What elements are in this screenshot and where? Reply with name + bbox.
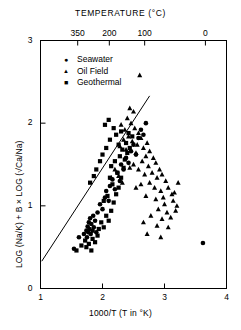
legend-item: ■Geothermal bbox=[60, 77, 121, 89]
data-point-oil-field bbox=[153, 160, 158, 165]
data-point-oil-field bbox=[132, 125, 137, 130]
data-point-oil-field bbox=[153, 197, 158, 202]
data-point-oil-field bbox=[131, 162, 136, 167]
legend: ●Seawater▲Oil Field■Geothermal bbox=[60, 54, 121, 89]
data-point-geothermal bbox=[109, 164, 113, 168]
data-point-oil-field bbox=[168, 215, 173, 220]
top-tick-label: 100 bbox=[134, 28, 156, 38]
data-point-oil-field bbox=[147, 149, 152, 154]
data-point-geothermal bbox=[115, 171, 119, 175]
data-point-geothermal bbox=[108, 138, 112, 142]
data-point-geothermal bbox=[114, 133, 118, 137]
data-point-seawater bbox=[92, 225, 97, 230]
data-point-geothermal bbox=[118, 154, 122, 158]
data-point-oil-field bbox=[164, 210, 169, 215]
data-point-geothermal bbox=[123, 157, 127, 161]
data-point-oil-field bbox=[160, 216, 165, 221]
data-point-geothermal bbox=[92, 174, 96, 178]
square-marker-icon: ■ bbox=[60, 77, 72, 89]
data-point-geothermal bbox=[88, 181, 92, 185]
data-point-oil-field bbox=[133, 150, 138, 155]
data-point-geothermal bbox=[120, 148, 124, 152]
data-points bbox=[72, 73, 206, 253]
data-point-geothermal bbox=[97, 227, 101, 231]
data-point-oil-field bbox=[172, 190, 177, 195]
data-point-geothermal bbox=[93, 240, 97, 244]
data-point-oil-field bbox=[174, 203, 179, 208]
data-point-seawater bbox=[106, 199, 111, 204]
data-point-seawater bbox=[95, 210, 100, 215]
x-tick-label: 3 bbox=[155, 292, 175, 302]
data-point-geothermal bbox=[103, 123, 107, 127]
data-point-geothermal bbox=[114, 192, 118, 196]
data-point-geothermal bbox=[113, 159, 117, 163]
data-point-seawater bbox=[98, 202, 103, 207]
data-point-oil-field bbox=[150, 170, 155, 175]
y-tick-label: 1 bbox=[25, 200, 36, 210]
scatter-plot-figure: TEMPERATURE (°C) LOG (Na/K) + B × LOG (√… bbox=[0, 0, 241, 330]
data-point-oil-field bbox=[166, 185, 171, 190]
data-point-geothermal bbox=[109, 209, 113, 213]
x-tick-label: 1 bbox=[31, 292, 51, 302]
data-point-oil-field bbox=[145, 140, 150, 145]
data-point-geothermal bbox=[126, 131, 130, 135]
data-point-oil-field bbox=[148, 213, 153, 218]
data-point-geothermal bbox=[99, 220, 103, 224]
data-point-geothermal bbox=[112, 200, 116, 204]
data-point-geothermal bbox=[79, 243, 83, 247]
data-point-oil-field bbox=[176, 180, 181, 185]
x-tick-label: 2 bbox=[93, 292, 113, 302]
data-point-oil-field bbox=[161, 195, 166, 200]
data-point-oil-field bbox=[141, 220, 146, 225]
data-point-oil-field bbox=[142, 172, 147, 177]
data-point-oil-field bbox=[160, 172, 165, 177]
data-point-oil-field bbox=[173, 208, 178, 213]
data-point-oil-field bbox=[158, 235, 163, 240]
data-point-oil-field bbox=[146, 163, 151, 168]
data-point-geothermal bbox=[117, 143, 121, 147]
data-point-oil-field bbox=[137, 73, 142, 78]
data-point-oil-field bbox=[127, 106, 132, 111]
data-point-oil-field bbox=[147, 180, 152, 185]
data-point-geothermal bbox=[121, 166, 125, 170]
x-tick-label: 4 bbox=[217, 292, 237, 302]
data-point-oil-field bbox=[133, 185, 138, 190]
data-point-seawater bbox=[126, 161, 131, 166]
legend-item: ▲Oil Field bbox=[60, 66, 121, 78]
data-point-geothermal bbox=[104, 214, 108, 218]
data-point-oil-field bbox=[143, 193, 148, 198]
top-tick-label: 350 bbox=[67, 28, 89, 38]
data-point-oil-field bbox=[125, 116, 130, 121]
data-point-seawater bbox=[144, 121, 149, 126]
data-point-oil-field bbox=[141, 145, 146, 150]
data-point-oil-field bbox=[136, 167, 141, 172]
data-point-oil-field bbox=[155, 175, 160, 180]
data-point-geothermal bbox=[125, 151, 129, 155]
data-point-seawater bbox=[104, 189, 109, 194]
data-point-oil-field bbox=[163, 178, 168, 183]
data-point-geothermal bbox=[119, 176, 123, 180]
data-point-seawater bbox=[141, 132, 146, 137]
data-point-geothermal bbox=[102, 199, 106, 203]
y-tick-label: 0 bbox=[25, 283, 36, 293]
data-point-geothermal bbox=[105, 194, 109, 198]
data-point-oil-field bbox=[152, 185, 157, 190]
y-tick-label: 2 bbox=[25, 117, 36, 127]
data-point-geothermal bbox=[124, 141, 128, 145]
data-point-seawater bbox=[201, 241, 206, 246]
data-point-seawater bbox=[91, 213, 96, 218]
data-point-oil-field bbox=[151, 155, 156, 160]
data-point-geothermal bbox=[94, 167, 98, 171]
data-point-seawater bbox=[100, 207, 105, 212]
data-point-geothermal bbox=[107, 219, 111, 223]
data-point-geothermal bbox=[117, 186, 121, 190]
data-point-oil-field bbox=[138, 182, 143, 187]
data-point-oil-field bbox=[140, 158, 145, 163]
data-point-oil-field bbox=[171, 198, 176, 203]
data-point-geothermal bbox=[74, 248, 78, 252]
data-point-geothermal bbox=[107, 118, 111, 122]
data-point-oil-field bbox=[166, 225, 171, 230]
legend-label: Geothermal bbox=[77, 77, 121, 89]
data-point-geothermal bbox=[112, 126, 116, 130]
top-tick-label: 0 bbox=[194, 28, 216, 38]
